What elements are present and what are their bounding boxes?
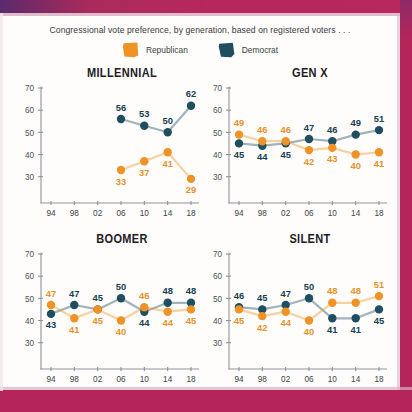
svg-text:43: 43 (46, 319, 56, 330)
svg-text:60: 60 (213, 106, 223, 115)
svg-text:62: 62 (186, 88, 196, 99)
chart-svg-millennial: 7060504030949802061014185653506233374129 (9, 62, 199, 222)
svg-text:40: 40 (350, 160, 360, 171)
svg-text:44: 44 (162, 317, 173, 328)
legend-label-republican: Republican (146, 45, 188, 55)
svg-text:14: 14 (163, 209, 173, 218)
svg-text:18: 18 (186, 375, 196, 384)
svg-text:06: 06 (116, 375, 126, 384)
svg-text:10: 10 (328, 209, 338, 218)
svg-text:47: 47 (69, 288, 79, 299)
svg-text:14: 14 (351, 375, 361, 384)
svg-text:41: 41 (374, 158, 384, 169)
chart-svg-silent: 7060504030949802061014184645475041414545… (197, 228, 387, 388)
svg-text:51: 51 (374, 113, 384, 124)
svg-text:42: 42 (304, 156, 314, 167)
svg-text:18: 18 (186, 209, 196, 218)
chart-panel-millennial: MILLENNIAL 70605040309498020610141856535… (9, 62, 199, 222)
svg-text:44: 44 (139, 317, 150, 328)
svg-text:40: 40 (25, 151, 35, 160)
svg-text:60: 60 (213, 272, 223, 281)
magazine-page: Congressional vote preference, by genera… (0, 0, 412, 412)
svg-text:49: 49 (234, 117, 244, 128)
svg-text:49: 49 (350, 117, 360, 128)
svg-text:41: 41 (350, 324, 360, 335)
chart-panel-boomer: BOOMER 706050403094980206101418434745504… (9, 228, 199, 388)
svg-text:33: 33 (116, 176, 126, 187)
svg-text:40: 40 (116, 326, 126, 337)
svg-text:06: 06 (304, 375, 314, 384)
svg-text:50: 50 (162, 115, 172, 126)
svg-text:40: 40 (213, 151, 223, 160)
chart-svg-genx: 7060504030949802061014184544454746495149… (197, 62, 387, 222)
svg-text:50: 50 (25, 295, 35, 304)
svg-text:60: 60 (25, 106, 35, 115)
svg-text:14: 14 (163, 375, 173, 384)
page-border-right (400, 0, 412, 412)
svg-text:30: 30 (25, 339, 35, 348)
svg-text:45: 45 (257, 292, 267, 303)
svg-text:45: 45 (92, 315, 102, 326)
svg-text:48: 48 (162, 285, 172, 296)
svg-text:42: 42 (257, 322, 267, 333)
svg-text:50: 50 (25, 129, 35, 138)
figure-container: Congressional vote preference, by genera… (3, 16, 397, 387)
page-border-right-highlight (397, 13, 400, 393)
svg-text:48: 48 (350, 285, 360, 296)
svg-text:98: 98 (70, 209, 80, 218)
svg-text:47: 47 (280, 288, 290, 299)
svg-text:47: 47 (46, 288, 56, 299)
svg-text:70: 70 (25, 84, 35, 93)
svg-text:18: 18 (374, 209, 384, 218)
svg-text:47: 47 (304, 122, 314, 133)
chart-panel-silent: SILENT 706050403094980206101418464547504… (197, 228, 387, 388)
democrat-swatch-icon (218, 42, 235, 58)
svg-text:10: 10 (140, 209, 150, 218)
svg-text:50: 50 (304, 281, 314, 292)
svg-text:41: 41 (162, 158, 172, 169)
svg-text:44: 44 (257, 151, 268, 162)
legend-item-democrat: Democrat (218, 42, 278, 58)
svg-text:70: 70 (25, 250, 35, 259)
svg-text:40: 40 (25, 317, 35, 326)
svg-text:53: 53 (139, 108, 149, 119)
svg-text:94: 94 (234, 375, 244, 384)
svg-text:43: 43 (327, 153, 337, 164)
page-border-bottom (0, 390, 412, 412)
svg-text:94: 94 (46, 375, 56, 384)
svg-text:48: 48 (327, 285, 337, 296)
svg-text:50: 50 (213, 295, 223, 304)
svg-text:94: 94 (46, 209, 56, 218)
legend-label-democrat: Democrat (242, 45, 278, 55)
chart-svg-boomer: 7060504030949802061014184347455044484847… (9, 228, 199, 388)
svg-text:02: 02 (93, 209, 103, 218)
svg-text:02: 02 (93, 375, 103, 384)
svg-text:30: 30 (213, 339, 223, 348)
svg-text:10: 10 (328, 375, 338, 384)
svg-text:48: 48 (186, 285, 196, 296)
svg-text:45: 45 (374, 315, 384, 326)
svg-text:98: 98 (70, 375, 80, 384)
svg-text:30: 30 (25, 173, 35, 182)
svg-text:70: 70 (213, 84, 223, 93)
svg-text:45: 45 (186, 315, 196, 326)
svg-text:41: 41 (69, 324, 79, 335)
svg-text:56: 56 (116, 102, 126, 113)
svg-text:40: 40 (304, 326, 314, 337)
chart-panel-genx: GEN X 7060504030949802061014184544454746… (197, 62, 387, 222)
legend: Republican Democrat (3, 42, 397, 58)
svg-text:46: 46 (327, 124, 337, 135)
svg-text:46: 46 (234, 290, 244, 301)
svg-text:45: 45 (234, 149, 244, 160)
svg-text:29: 29 (186, 184, 196, 195)
svg-text:46: 46 (280, 124, 290, 135)
svg-text:98: 98 (258, 375, 268, 384)
svg-text:14: 14 (351, 209, 361, 218)
svg-text:18: 18 (374, 375, 384, 384)
svg-text:70: 70 (213, 250, 223, 259)
svg-text:44: 44 (280, 317, 291, 328)
svg-text:46: 46 (257, 124, 267, 135)
svg-text:40: 40 (213, 317, 223, 326)
svg-text:46: 46 (139, 290, 149, 301)
svg-text:02: 02 (281, 375, 291, 384)
